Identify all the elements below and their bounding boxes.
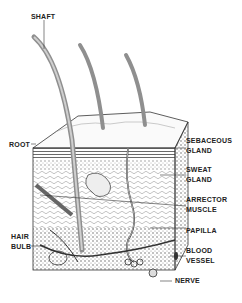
label-arrector-line2: MUSCLE [186, 206, 217, 214]
label-sweat-line2: GLAND [186, 176, 212, 184]
label-sweat-line1: SWEAT [186, 166, 212, 174]
label-shaft: SHAFT [31, 13, 55, 21]
label-blood-vessel-line2: VESSEL [186, 257, 215, 265]
label-hair-bulb-line1: HAIR [11, 233, 29, 241]
label-sebaceous-line1: SEBACEOUS [186, 137, 232, 145]
label-root: ROOT [9, 141, 30, 149]
label-blood-vessel-line1: BLOOD [186, 247, 212, 255]
label-papilla: PAPILLA [186, 227, 217, 235]
label-sebaceous-line2: GLAND [186, 147, 212, 155]
skin-surface [33, 112, 188, 148]
label-nerve: NERVE [175, 277, 200, 285]
label-arrector-line1: ARRECTOR [186, 196, 227, 204]
label-hair-bulb-line2: BULB [11, 243, 31, 251]
